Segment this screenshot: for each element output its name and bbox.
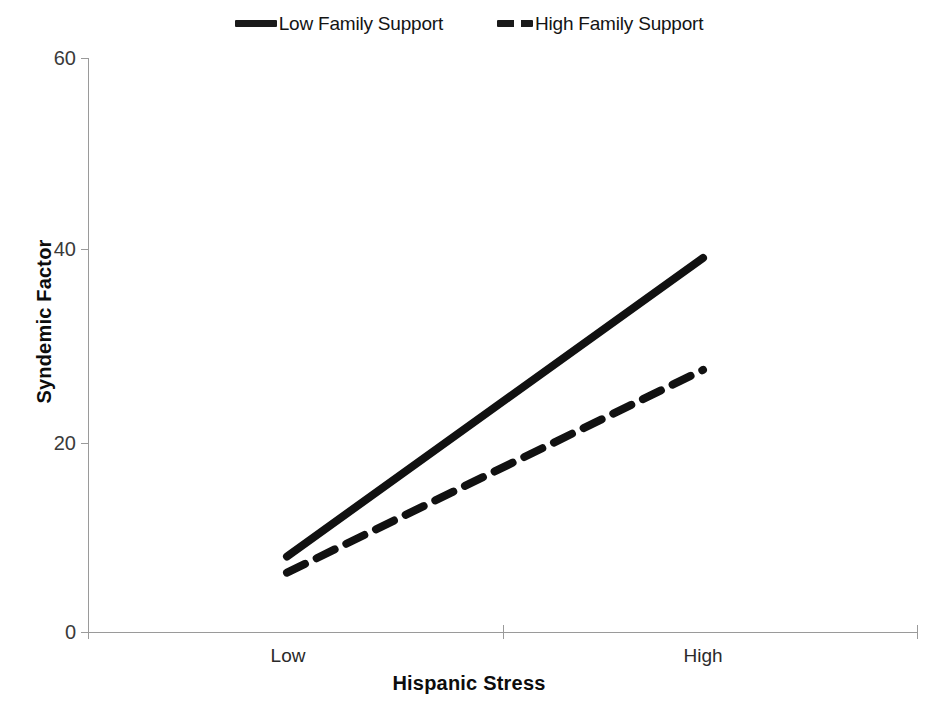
series-line-high-family-support [287,370,703,573]
series-line-low-family-support [287,258,703,556]
plot-area [0,0,938,720]
chart-figure: Low Family Support High Family Support 6… [0,0,938,720]
